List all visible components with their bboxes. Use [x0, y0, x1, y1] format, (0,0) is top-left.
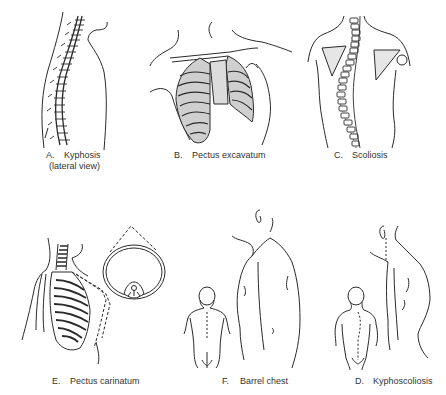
caption-title: Kyphoscoliosis — [373, 376, 433, 386]
caption-kyphosis: A.Kyphosis (lateral view) — [46, 150, 101, 172]
caption-kyphoscoliosis: D.Kyphoscoliosis — [355, 376, 433, 387]
caption-pectus-carinatum: E.Pectus carinatum — [52, 376, 140, 387]
caption-title: Kyphosis — [64, 150, 101, 160]
caption-letter: F. — [222, 376, 240, 387]
scoliosis-illustration — [296, 0, 446, 150]
panel-pectus-excavatum: B.Pectus excavatum — [150, 0, 300, 170]
caption-title: Pectus excavatum — [192, 150, 266, 160]
pectus-carinatum-illustration — [0, 200, 165, 365]
panel-kyphosis: A.Kyphosis (lateral view) — [0, 0, 150, 190]
panel-kyphoscoliosis: D.Kyphoscoliosis — [300, 200, 446, 395]
caption-pectus-excavatum: B.Pectus excavatum — [174, 150, 266, 161]
kyphoscoliosis-illustration — [300, 200, 446, 370]
panel-barrel-chest: F.Barrel chest — [160, 200, 305, 395]
caption-subtitle: (lateral view) — [46, 161, 101, 172]
pectus-excavatum-illustration — [150, 0, 300, 150]
barrel-chest-illustration — [160, 200, 305, 370]
caption-letter: A. — [46, 150, 64, 161]
caption-letter: C. — [334, 150, 352, 161]
caption-scoliosis: C.Scoliosis — [334, 150, 388, 161]
caption-letter: E. — [52, 376, 70, 387]
kyphosis-illustration — [0, 0, 150, 150]
caption-title: Pectus carinatum — [70, 376, 140, 386]
caption-letter: D. — [355, 376, 373, 387]
panel-scoliosis: C.Scoliosis — [296, 0, 446, 170]
caption-letter: B. — [174, 150, 192, 161]
caption-title: Scoliosis — [352, 150, 388, 160]
panel-pectus-carinatum: E.Pectus carinatum — [0, 200, 165, 395]
caption-barrel-chest: F.Barrel chest — [222, 376, 288, 387]
caption-title: Barrel chest — [240, 376, 288, 386]
